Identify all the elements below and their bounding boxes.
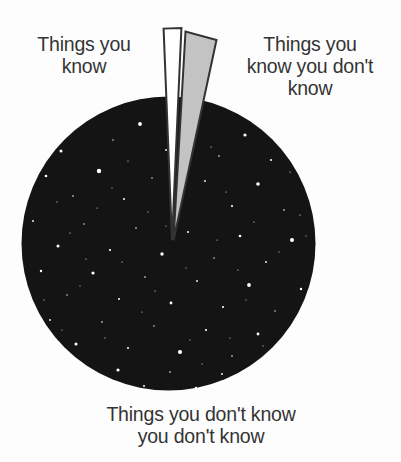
knowledge-pie-chart: Things you know Things you know you don'… [0,0,401,462]
pie-label-things-you-know: Things you know [8,34,160,78]
pie-label-things-you-know-you-dont-know: Things you know you don't know [224,34,396,99]
pie-label-things-you-dont-know-you-dont-know: Things you don't know you don't know [30,404,372,448]
